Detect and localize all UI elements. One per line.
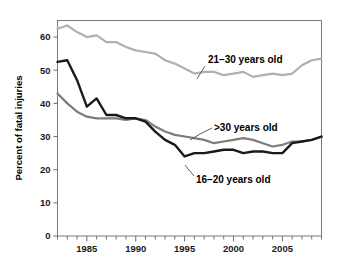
- x-tick-label-1995: 1995: [174, 243, 196, 254]
- y-tick-label-0: 0: [45, 230, 50, 241]
- x-tick-label-2005: 2005: [272, 243, 294, 254]
- y-tick-label-10: 10: [40, 197, 51, 208]
- y-tick-label-20: 20: [40, 164, 51, 175]
- chart-figure: 0102030405060 19851990199520002005 21–30…: [0, 0, 338, 272]
- y-tick-label-50: 50: [40, 65, 51, 76]
- y-tick-label-60: 60: [40, 31, 51, 42]
- x-tick-label-2000: 2000: [223, 243, 244, 254]
- line-chart: 0102030405060 19851990199520002005 21–30…: [0, 0, 338, 272]
- y-tick-label-40: 40: [40, 98, 51, 109]
- annotation-label-0: 21–30 years old: [208, 54, 283, 65]
- x-tick-label-1990: 1990: [125, 243, 146, 254]
- chart-background: [0, 0, 338, 272]
- y-axis-title: Percent of fatal injuries: [13, 75, 24, 180]
- annotation-label-2: 16–20 years old: [196, 174, 271, 185]
- x-tick-label-1985: 1985: [76, 243, 98, 254]
- annotation-label-1: >30 years old: [214, 122, 278, 133]
- y-tick-label-30: 30: [40, 131, 51, 142]
